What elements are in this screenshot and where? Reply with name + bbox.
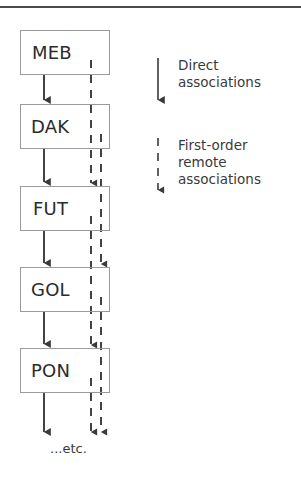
continuation-label: ...etc.: [50, 441, 87, 456]
node-label-gol: GOL: [31, 279, 70, 300]
legend-label-direct: Direct associations: [178, 57, 261, 91]
node-label-meb: MEB: [32, 42, 72, 63]
node-label-pon: PON: [31, 360, 70, 381]
figure-root: MEB DAK FUT GOL PON ...etc. Direct assoc…: [0, 0, 301, 478]
legend-label-remote: First-order remote associations: [178, 137, 261, 188]
node-label-dak: DAK: [31, 116, 69, 137]
node-label-fut: FUT: [33, 198, 68, 219]
